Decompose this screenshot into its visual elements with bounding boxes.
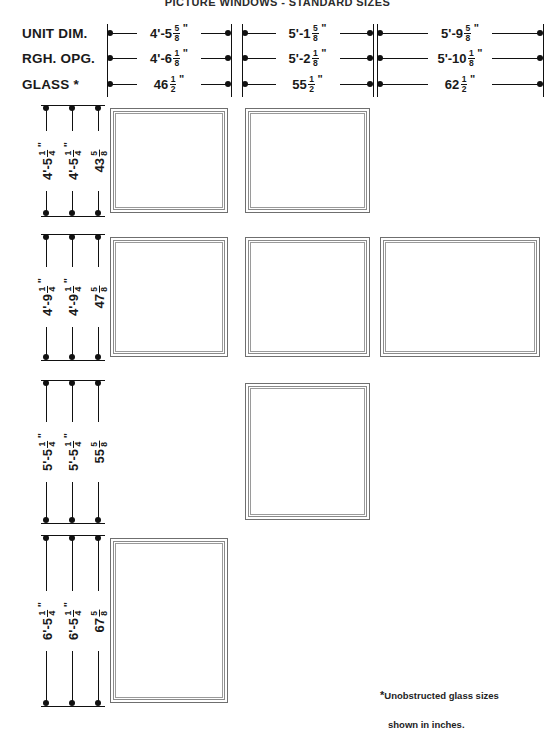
h-dimension-col-3-unit-dim: 5'-958" [377, 27, 543, 41]
window-glass-area [385, 242, 535, 352]
h-dimension-col-2-rgh-opg: 5'-218" [242, 52, 373, 66]
window-glass-area [115, 242, 223, 352]
v-dimension-text: 6'-514" [38, 602, 56, 640]
window-unit-row-1-col-1 [110, 108, 228, 213]
v-dimension-row-4-glass: 6758 [92, 535, 106, 706]
v-dimension-row-4-unit-dim: 6'-514" [40, 535, 54, 706]
h-dimension-text: 4'-618" [107, 49, 231, 67]
window-glass-area [250, 388, 365, 515]
v-dimension-text: 6758 [90, 609, 108, 632]
v-dimension-text: 5558 [90, 440, 108, 463]
h-extension-line [373, 24, 374, 97]
label-unit-dim: UNIT DIM. [22, 26, 88, 41]
h-dimension-col-1-rgh-opg: 4'-618" [107, 52, 231, 66]
window-unit-row-2-col-2 [245, 237, 370, 357]
footnote: *Unobstructed glass sizes shown in inche… [380, 672, 499, 732]
v-dimension-row-2-unit-dim: 4'-914" [40, 234, 54, 360]
v-dimension-row-1-glass: 4358 [92, 105, 106, 216]
footnote-line-2: shown in inches. [388, 719, 465, 730]
v-dimension-text: 4'-914" [38, 278, 56, 316]
v-extension-line [41, 216, 105, 217]
v-dimension-row-2-rgh-opg: 4'-914" [66, 234, 80, 360]
window-unit-row-4-col-1 [110, 538, 228, 703]
window-glass-area [115, 113, 223, 208]
h-extension-line [242, 24, 243, 97]
window-unit-row-1-col-2 [245, 108, 370, 213]
h-extension-line [377, 24, 378, 97]
window-glass-area [250, 242, 365, 352]
v-dimension-text: 4'-914" [64, 278, 82, 316]
v-dimension-text: 4758 [90, 285, 108, 308]
h-dimension-text: 5'-1018" [377, 49, 543, 67]
window-glass-area [115, 543, 223, 698]
window-unit-row-2-col-1 [110, 237, 228, 357]
v-dimension-row-3-glass: 5558 [92, 380, 106, 523]
v-dimension-text: 6'-514" [64, 602, 82, 640]
window-glass-area [250, 113, 365, 208]
v-dimension-text: 4'-514" [38, 142, 56, 180]
v-dimension-row-4-rgh-opg: 6'-514" [66, 535, 80, 706]
v-dimension-text: 5'-514" [38, 433, 56, 471]
v-extension-line [41, 360, 105, 361]
footnote-line-1: Unobstructed glass sizes [384, 690, 499, 701]
v-dimension-row-3-unit-dim: 5'-514" [40, 380, 54, 523]
window-unit-row-3-col-2 [245, 383, 370, 520]
h-extension-line [543, 24, 544, 97]
h-dimension-col-1-unit-dim: 4'-558" [107, 27, 231, 41]
h-extension-line [107, 24, 108, 97]
v-dimension-row-2-glass: 4758 [92, 234, 106, 360]
window-unit-row-2-col-3 [380, 237, 540, 357]
v-dimension-text: 4'-514" [64, 142, 82, 180]
v-dimension-row-1-rgh-opg: 4'-514" [66, 105, 80, 216]
h-dimension-col-3-rgh-opg: 5'-1018" [377, 52, 543, 66]
h-dimension-col-2-unit-dim: 5'-158" [242, 27, 373, 41]
h-dimension-text: 5'-218" [242, 49, 373, 67]
h-dimension-text: 4612" [107, 75, 231, 93]
h-dimension-col-2-glass: 5512" [242, 78, 373, 92]
h-dimension-col-3-glass: 6212" [377, 78, 543, 92]
h-dimension-text: 6212" [377, 75, 543, 93]
h-dimension-text: 5'-958" [377, 24, 543, 42]
v-extension-line [41, 706, 105, 707]
sheet-title: PICTURE WINDOWS - STANDARD SIZES [0, 0, 555, 8]
h-extension-line [231, 24, 232, 97]
v-dimension-text: 5'-514" [64, 433, 82, 471]
h-dimension-text: 5512" [242, 75, 373, 93]
v-dimension-row-3-rgh-opg: 5'-514" [66, 380, 80, 523]
v-dimension-text: 4358 [90, 149, 108, 172]
v-dimension-row-1-unit-dim: 4'-514" [40, 105, 54, 216]
label-glass: GLASS * [22, 77, 79, 92]
label-rgh-opg: RGH. OPG. [22, 51, 95, 66]
h-dimension-text: 4'-558" [107, 24, 231, 42]
h-dimension-col-1-glass: 4612" [107, 78, 231, 92]
v-extension-line [41, 523, 105, 524]
h-dimension-text: 5'-158" [242, 24, 373, 42]
